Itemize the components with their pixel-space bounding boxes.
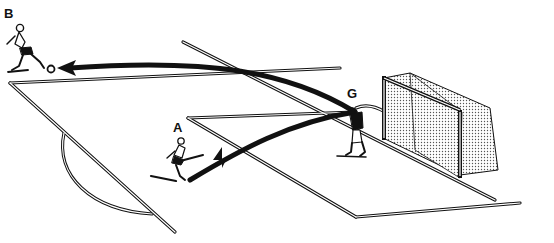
goal-net (383, 73, 498, 178)
player-label-g: G (347, 87, 357, 100)
soccer-drill-diagram: B A G (0, 0, 554, 243)
player-b-figure (7, 24, 44, 72)
ball (48, 66, 55, 73)
pitch-drawing (0, 0, 554, 243)
player-label-b: B (4, 7, 13, 20)
pass-arrow-a-to-g (190, 112, 355, 180)
player-label-a: A (173, 121, 182, 134)
